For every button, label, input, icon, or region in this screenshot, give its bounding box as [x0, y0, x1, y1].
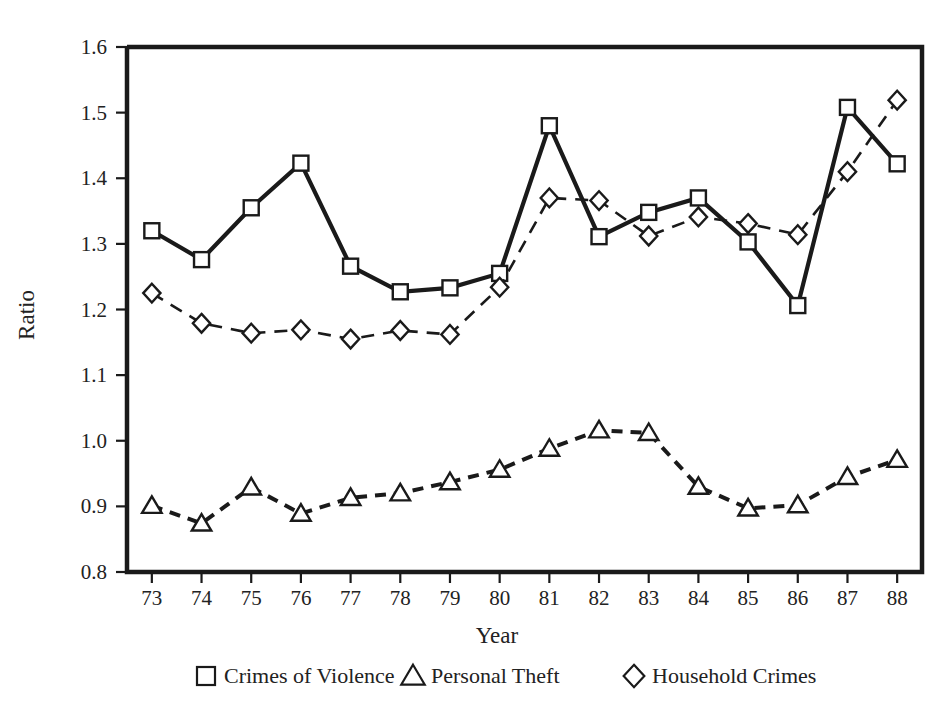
y-tick-label: 1.6	[81, 35, 107, 59]
diamond-marker	[143, 284, 160, 303]
triangle-marker	[391, 484, 411, 501]
diamond-marker	[640, 227, 657, 246]
diamond-marker	[739, 214, 756, 233]
diamond-marker	[690, 208, 707, 227]
legend-label-household-crimes: Household Crimes	[652, 663, 816, 688]
square-marker	[244, 200, 259, 215]
square-marker	[592, 229, 607, 244]
square-marker	[641, 205, 656, 220]
x-tick-label: 83	[638, 586, 659, 610]
data-series-layer	[142, 91, 907, 531]
y-tick-label: 0.8	[81, 560, 107, 584]
x-tick-label: 80	[489, 586, 510, 610]
square-marker	[840, 100, 855, 115]
y-axis-tick-labels: 1.61.51.41.31.21.11.00.90.8	[81, 35, 108, 584]
diamond-marker	[243, 324, 260, 343]
x-tick-label: 84	[688, 586, 710, 610]
square-marker	[890, 156, 905, 171]
x-axis-title: Year	[476, 623, 519, 648]
diamond-marker	[624, 665, 645, 688]
square-marker	[442, 280, 457, 295]
y-tick-label: 1.2	[81, 298, 107, 322]
square-marker	[741, 234, 756, 249]
triangle-marker	[887, 450, 907, 467]
legend-label-personal-theft: Personal Theft	[431, 663, 560, 688]
triangle-marker	[540, 439, 560, 456]
square-marker	[343, 259, 358, 274]
x-tick-label: 73	[141, 586, 162, 610]
triangle-marker	[142, 496, 162, 513]
square-marker	[542, 118, 557, 133]
diamond-marker	[590, 191, 607, 210]
x-tick-label: 88	[887, 586, 908, 610]
triangle-marker	[838, 467, 858, 484]
triangle-marker	[639, 424, 659, 441]
x-tick-label: 74	[191, 586, 213, 610]
x-tick-label: 79	[439, 586, 460, 610]
triangle-marker	[401, 665, 424, 685]
x-tick-label: 75	[241, 586, 262, 610]
y-tick-label: 1.0	[81, 429, 107, 453]
x-tick-label: 77	[340, 586, 361, 610]
series-line	[152, 430, 897, 523]
legend-label-crimes-of-violence: Crimes of Violence	[224, 663, 395, 688]
triangle-marker	[241, 478, 261, 495]
x-tick-label: 82	[589, 586, 610, 610]
diamond-marker	[193, 314, 210, 333]
y-axis-title: Ratio	[14, 290, 39, 340]
series-line	[152, 100, 897, 339]
y-tick-label: 1.3	[81, 232, 107, 256]
triangle-marker	[788, 496, 808, 513]
y-tick-label: 1.4	[81, 166, 108, 190]
square-marker	[194, 252, 209, 267]
chart-legend: Crimes of ViolencePersonal TheftHousehol…	[197, 663, 816, 688]
x-tick-label: 81	[539, 586, 560, 610]
diamond-marker	[342, 330, 359, 349]
y-tick-label: 1.5	[81, 101, 107, 125]
square-marker	[691, 190, 706, 205]
square-marker	[293, 156, 308, 171]
x-tick-label: 86	[787, 586, 808, 610]
triangle-marker	[589, 421, 609, 438]
series-crimes-of-violence	[144, 100, 904, 313]
square-marker	[393, 284, 408, 299]
x-tick-label: 85	[738, 586, 759, 610]
chart-figure: 1.61.51.41.31.21.11.00.90.8 737475767778…	[0, 0, 946, 705]
x-axis-tick-labels: 73747576777879808182838485868788	[141, 586, 907, 610]
y-tick-label: 1.1	[81, 363, 107, 387]
series-personal-theft	[142, 421, 907, 531]
diamond-marker	[541, 189, 558, 208]
square-marker	[197, 667, 215, 685]
diamond-marker	[392, 321, 409, 340]
y-tick-label: 0.9	[81, 494, 107, 518]
x-tick-label: 76	[290, 586, 311, 610]
x-tick-label: 78	[390, 586, 411, 610]
diamond-marker	[292, 320, 309, 339]
square-marker	[790, 298, 805, 313]
square-marker	[144, 223, 159, 238]
line-chart: 1.61.51.41.31.21.11.00.90.8 737475767778…	[0, 0, 946, 705]
x-tick-label: 87	[837, 586, 858, 610]
series-line	[152, 107, 897, 305]
